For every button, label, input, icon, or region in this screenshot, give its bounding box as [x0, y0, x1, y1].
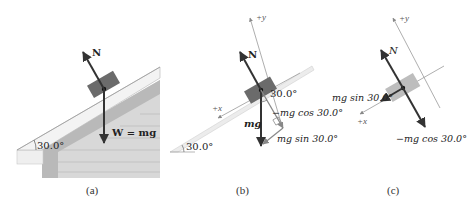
caption-b: (b) — [236, 184, 249, 197]
eave — [17, 150, 43, 164]
panel-b: 30.0° +y +x N mg 30.0° −mg cos 30.0° mg … — [170, 12, 343, 197]
angle-label-incline-b: 30.0° — [186, 141, 213, 152]
panel-a: 30.0° N W = mg (a) — [17, 47, 160, 197]
panel-c: +y +x N −mg cos 30.0° mg sin 30.0° (c) — [332, 13, 467, 197]
perp-component-c — [403, 88, 425, 127]
parallel-label-c: mg sin 30.0° — [332, 92, 393, 103]
x-axis-label-b: +x — [212, 103, 222, 113]
normal-label-b: N — [248, 49, 257, 60]
x-axis-label-c: +x — [357, 116, 367, 126]
angle-label-a: 30.0° — [37, 140, 64, 151]
y-axis-label-c: +y — [399, 13, 409, 23]
normal-label-a: N — [92, 47, 101, 58]
parallel-label-b: mg sin 30.0° — [277, 133, 338, 144]
y-axis-label-b: +y — [256, 12, 266, 22]
weight-label-b: mg — [244, 118, 262, 129]
perp-label-c: −mg cos 30.0° — [396, 133, 467, 144]
caption-a: (a) — [86, 184, 99, 197]
caption-c: (c) — [387, 184, 400, 197]
inclined-plane-figure: 30.0° N W = mg (a) 30.0° +y +x N — [0, 0, 467, 209]
perp-label-b: −mg cos 30.0° — [272, 107, 343, 118]
normal-label-c: N — [388, 45, 399, 56]
weight-label-a: W = mg — [111, 127, 156, 138]
angle-label-weight-b: 30.0° — [270, 88, 297, 99]
